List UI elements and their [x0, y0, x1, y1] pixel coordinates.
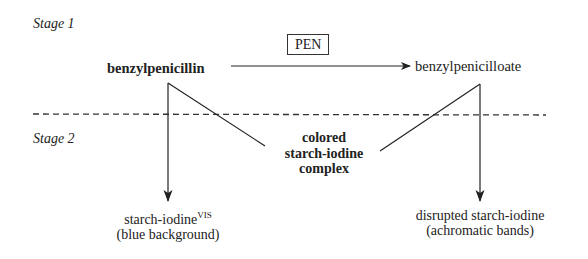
center-complex-label: colored starch-iodine complex [264, 130, 384, 177]
enzyme-label: PEN [295, 37, 321, 52]
vis-superscript: VIS [197, 210, 212, 220]
right-outcome: disrupted starch-iodine (achromatic band… [395, 208, 565, 238]
right-diagonal-line [380, 84, 480, 151]
product-label: benzylpenicilloate [415, 59, 521, 74]
stage-1-label: Stage 1 [33, 16, 75, 31]
stage-2-label: Stage 2 [33, 131, 75, 146]
complex-line-2: starch-iodine [264, 146, 384, 162]
right-outcome-line-1: disrupted starch-iodine [395, 208, 565, 223]
left-outcome-line-2: (blue background) [98, 227, 238, 242]
stage-divider [33, 114, 546, 115]
complex-line-1: colored [264, 130, 384, 146]
left-diagonal-line [168, 83, 265, 146]
left-outcome: starch-iodineVIS (blue background) [98, 208, 238, 242]
left-outcome-line-1: starch-iodineVIS [98, 208, 238, 227]
right-outcome-line-2: (achromatic bands) [395, 223, 565, 238]
substrate-label: benzylpenicillin [107, 61, 205, 76]
complex-line-3: complex [264, 161, 384, 177]
enzyme-box: PEN [287, 34, 329, 55]
